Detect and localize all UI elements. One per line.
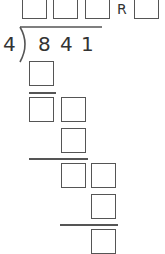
work-box-step1-diff-2[interactable]: [61, 97, 86, 122]
quotient-digit-box-2[interactable]: [53, 0, 78, 19]
subtraction-line-3: [60, 224, 118, 226]
dividend-digit-3: 1: [81, 34, 94, 54]
subtraction-line-1: [29, 92, 56, 94]
dividend-digit-1: 8: [38, 34, 51, 54]
remainder-label: R: [117, 2, 127, 16]
work-box-step3-subtract[interactable]: [91, 194, 116, 219]
work-box-step2-diff-1[interactable]: [61, 163, 86, 188]
divisor: 4: [3, 34, 16, 54]
remainder-box[interactable]: [134, 0, 159, 19]
work-box-final-remainder[interactable]: [91, 229, 116, 254]
quotient-digit-box-1[interactable]: [22, 0, 47, 19]
subtraction-line-2: [29, 158, 88, 160]
work-box-step1-subtract[interactable]: [29, 61, 54, 86]
quotient-digit-box-3[interactable]: [85, 0, 110, 19]
dividend-digit-2: 4: [60, 34, 73, 54]
work-box-step2-diff-2[interactable]: [91, 163, 116, 188]
work-box-step2-subtract[interactable]: [61, 128, 86, 153]
work-box-step1-diff-1[interactable]: [29, 97, 54, 122]
